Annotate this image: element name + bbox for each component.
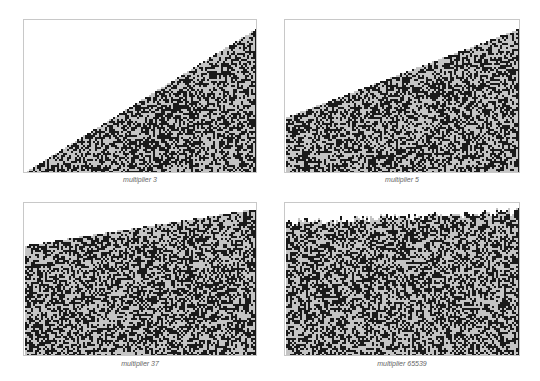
panel-multiplier-5 — [284, 19, 520, 173]
cellular-pattern-3 — [25, 21, 257, 173]
caption-multiplier-5: multiplier 5 — [285, 176, 519, 183]
cellular-pattern-5 — [286, 21, 520, 173]
cellular-pattern-37 — [25, 204, 257, 356]
caption-multiplier-65539: multiplier 65539 — [285, 360, 519, 367]
panel-multiplier-37 — [23, 202, 257, 356]
cellular-pattern-65539 — [286, 204, 520, 356]
panel-multiplier-3 — [23, 19, 257, 173]
panel-multiplier-65539 — [284, 202, 520, 356]
caption-multiplier-3: multiplier 3 — [23, 176, 257, 183]
caption-multiplier-37: multiplier 37 — [23, 360, 257, 367]
